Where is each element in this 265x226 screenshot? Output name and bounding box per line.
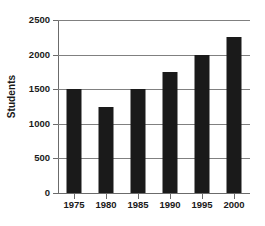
bar[interactable] bbox=[195, 55, 210, 193]
y-axis-tick-label: 1000 bbox=[10, 119, 50, 129]
x-axis-tick-label: 2000 bbox=[214, 200, 254, 210]
bars-layer bbox=[58, 20, 250, 193]
bar[interactable] bbox=[163, 72, 178, 193]
y-axis-tick-label: 0 bbox=[10, 188, 50, 198]
bar[interactable] bbox=[131, 89, 146, 193]
bar-slot bbox=[58, 20, 90, 193]
bar-chart-figure: Students 05001000150020002500 1975198019… bbox=[0, 0, 265, 226]
bar-slot bbox=[218, 20, 250, 193]
bar[interactable] bbox=[227, 37, 242, 193]
y-axis-title: Students bbox=[0, 0, 24, 193]
gridline bbox=[58, 193, 250, 194]
bar-slot bbox=[122, 20, 154, 193]
bar-slot bbox=[154, 20, 186, 193]
bar[interactable] bbox=[67, 89, 82, 193]
y-axis-tick-label: 1500 bbox=[10, 84, 50, 94]
bar[interactable] bbox=[99, 107, 114, 194]
bar-slot bbox=[186, 20, 218, 193]
plot-area bbox=[58, 20, 250, 193]
y-axis-title-label: Students bbox=[7, 75, 18, 119]
y-axis-tick-label: 2500 bbox=[10, 15, 50, 25]
y-axis-tick-label: 2000 bbox=[10, 50, 50, 60]
y-axis-tick-label: 500 bbox=[10, 153, 50, 163]
bar-slot bbox=[90, 20, 122, 193]
